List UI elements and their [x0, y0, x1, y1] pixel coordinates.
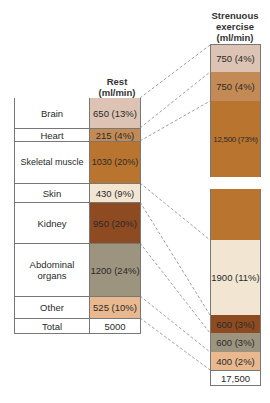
rest-value-skeletal-muscle: 1030 (20%)	[89, 142, 141, 184]
rest-label-other: Other	[14, 297, 90, 319]
exercise-value-other: 400 (2%)	[210, 352, 261, 370]
rest-value-abdominal-organs: 1200 (24%)	[89, 244, 141, 297]
exercise-value-brain: 750 (4%)	[210, 45, 261, 72]
rest-value-skin: 430 (9%)	[89, 184, 141, 203]
rest-value-kidney: 950 (20%)	[89, 203, 141, 244]
rest-label-skin: Skin	[14, 184, 90, 203]
rest-value-heart: 215 (4%)	[89, 129, 141, 142]
rest-label-brain: Brain	[14, 98, 90, 129]
rest-label-kidney: Kidney	[14, 203, 90, 244]
rest-label-skeletal-muscle: Skeletal muscle	[14, 142, 90, 184]
rest-label-abdominal-organs: Abdominal organs	[14, 244, 90, 297]
rest-total-label: Total	[14, 319, 90, 334]
exercise-value-heart: 750 (4%)	[210, 72, 261, 101]
rest-value-brain: 650 (13%)	[89, 98, 141, 129]
exercise-value-skeletal-muscle: 12,500 (73%)	[210, 101, 261, 177]
rest-value-other: 525 (10%)	[89, 297, 141, 319]
rest-total-value: 5000	[89, 319, 141, 334]
exercise-value-skin: 1900 (11%)	[210, 240, 261, 315]
exercise-skeletal-muscle-continued	[210, 189, 261, 240]
exercise-total-value: 17,500	[210, 370, 261, 386]
exercise-value-kidney: 600 (3%)	[210, 315, 261, 333]
rest-label-heart: Heart	[14, 129, 90, 142]
exercise-value-abdominal-organs: 600 (3%)	[210, 333, 261, 352]
